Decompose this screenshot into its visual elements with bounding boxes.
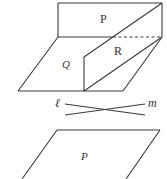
- label-line-l: ℓ: [55, 98, 60, 109]
- plane-r: [84, 3, 162, 91]
- plane-p-rectangle: [58, 3, 162, 37]
- intersecting-lines: [65, 104, 145, 115]
- label-plane-p: P: [100, 14, 107, 25]
- label-bottom-plane-p: P: [81, 151, 88, 162]
- plane-q-parallelogram: [18, 37, 162, 91]
- label-plane-q: Q: [62, 59, 70, 70]
- geometry-figure: P R Q ℓ m P: [0, 0, 167, 179]
- label-line-m: m: [148, 98, 157, 109]
- label-plane-r: R: [114, 46, 122, 57]
- bottom-plane-p: [22, 130, 160, 179]
